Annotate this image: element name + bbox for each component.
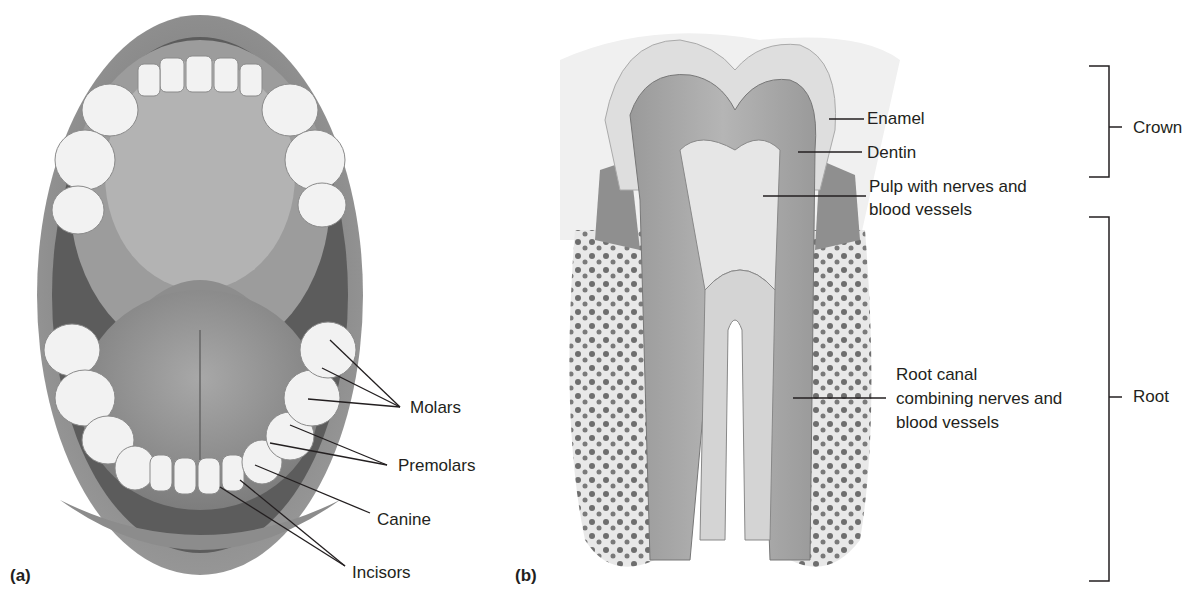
brackets (1089, 66, 1122, 581)
label-canine: Canine (377, 509, 431, 530)
label-dentin: Dentin (867, 142, 916, 163)
label-root: Root (1133, 386, 1169, 407)
label-incisors: Incisors (352, 562, 411, 583)
label-enamel: Enamel (867, 108, 925, 129)
label-crown: Crown (1133, 117, 1182, 138)
label-pulp-line1: Pulp with nerves and (869, 176, 1027, 197)
crown-bracket (1089, 66, 1109, 177)
panel-label-b: (b) (515, 566, 537, 586)
diagram-illustration (0, 0, 1204, 598)
label-root-canal-line3: blood vessels (896, 412, 999, 433)
label-molars: Molars (410, 397, 461, 418)
root-bracket (1089, 217, 1109, 581)
label-root-canal-line1: Root canal (896, 364, 977, 385)
mouth-illustration (37, 15, 363, 575)
label-pulp-line2: blood vessels (869, 199, 972, 220)
label-premolars: Premolars (398, 455, 475, 476)
label-root-canal-line2: combining nerves and (896, 388, 1062, 409)
tooth-cross-section (560, 33, 900, 566)
panel-label-a: (a) (10, 566, 31, 586)
